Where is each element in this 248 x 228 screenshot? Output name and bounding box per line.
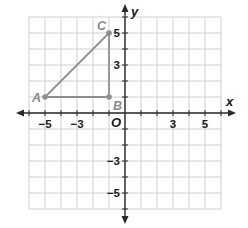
y-axis-arrow-up-icon [122, 4, 129, 12]
point-b [106, 94, 112, 100]
x-tick-label: 3 [170, 118, 176, 130]
y-tick-label: −5 [107, 187, 121, 199]
point-label-a: A [31, 91, 41, 105]
x-tick-label: −5 [38, 118, 52, 130]
y-axis-label: y [130, 4, 139, 19]
point-c [106, 30, 112, 36]
y-tick-label: −3 [107, 155, 120, 167]
x-tick-label: 5 [202, 118, 209, 130]
y-tick-label: 5 [114, 27, 121, 39]
point-label-c: C [97, 19, 107, 33]
y-axis-arrow-down-icon [122, 216, 129, 224]
x-tick-label: −3 [70, 118, 83, 130]
point-label-b: B [113, 99, 122, 113]
y-tick-label: 3 [114, 59, 120, 71]
x-axis-label: x [225, 94, 234, 109]
point-a [42, 94, 48, 100]
coordinate-plane: −5−33553−3−5 ABC x y O [0, 0, 248, 228]
x-axis-arrow-right-icon [228, 110, 236, 117]
origin-label: O [111, 115, 121, 130]
axes [16, 4, 236, 224]
x-axis-arrow-left-icon [16, 110, 24, 117]
